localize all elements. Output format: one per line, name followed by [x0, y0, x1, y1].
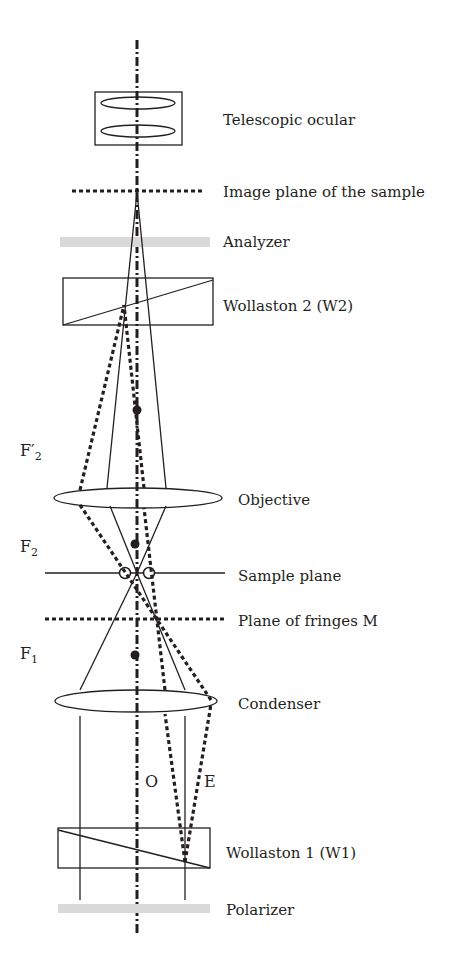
focal-point-f1 — [131, 651, 140, 660]
polarizer-plate — [58, 904, 210, 913]
label-condenser: Condenser — [238, 695, 321, 713]
label-fringes-plane: Plane of fringes M — [238, 612, 378, 630]
analyzer-plate — [60, 237, 210, 247]
solid-rays-middle — [80, 506, 185, 690]
label-extraordinary-ray: E — [204, 772, 216, 791]
label-wollaston-1: Wollaston 1 (W1) — [226, 844, 356, 862]
label-ordinary-ray: O — [145, 772, 158, 791]
focal-point-f2-prime — [133, 406, 142, 415]
dic-optical-diagram: F′2 F2 F1 O E Telescopic ocular Image pl… — [0, 0, 467, 957]
label-analyzer: Analyzer — [222, 233, 290, 251]
label-telescopic-ocular: Telescopic ocular — [223, 111, 356, 129]
label-sample-plane: Sample plane — [238, 567, 341, 585]
label-f2: F2 — [20, 537, 38, 559]
label-polarizer: Polarizer — [226, 901, 295, 919]
label-objective: Objective — [238, 491, 310, 509]
label-f2-prime: F′2 — [20, 441, 42, 463]
focal-point-f2 — [131, 540, 140, 549]
label-wollaston-2: Wollaston 2 (W2) — [223, 297, 353, 315]
label-f1: F1 — [20, 644, 38, 666]
label-image-plane: Image plane of the sample — [223, 183, 425, 201]
